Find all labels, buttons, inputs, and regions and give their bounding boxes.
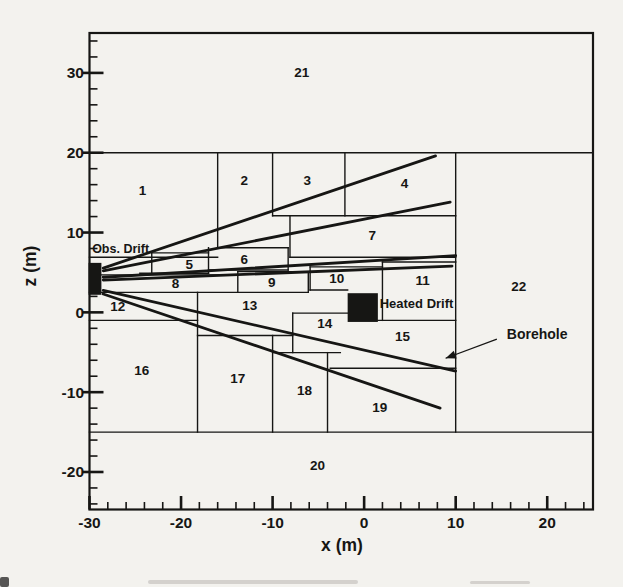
- scan-smudge: [470, 581, 530, 584]
- region-number-label: 19: [372, 400, 387, 415]
- z-tick-label: -10: [62, 384, 84, 401]
- borehole-annotation-label: Borehole: [507, 326, 568, 342]
- region-number-label: 20: [310, 458, 325, 473]
- region-number-label: 10: [329, 271, 344, 286]
- region-number-label: 11: [416, 273, 431, 288]
- scanned-figure-page: -30-20-1001020x (m)3020100-10-20z (m)123…: [0, 0, 623, 587]
- z-tick-label: 30: [67, 64, 84, 81]
- x-tick-label: 0: [360, 514, 369, 531]
- region-number-label: 2: [240, 173, 248, 188]
- region-number-label: 9: [268, 275, 276, 290]
- region-number-label: 21: [294, 65, 310, 80]
- obs-drift-label: Obs. Drift: [92, 242, 150, 256]
- region-number-label: 1: [139, 183, 147, 198]
- borehole-lines-group: [103, 156, 455, 408]
- scan-smudge: [148, 580, 358, 584]
- heated-drift-square: [348, 293, 378, 322]
- region-number-label: 13: [242, 298, 258, 313]
- z-tick-label: -20: [62, 463, 84, 480]
- region-number-label: 17: [230, 371, 245, 386]
- z-tick-label: 0: [75, 304, 84, 321]
- region-number-label: 14: [317, 316, 333, 331]
- heated-drift-label: Heated Drift: [380, 296, 454, 311]
- borehole-line: [103, 294, 440, 408]
- region-number-label: 22: [511, 279, 526, 294]
- region-number-label: 5: [186, 257, 194, 272]
- region-number-label: 3: [304, 173, 312, 188]
- region-number-label: 7: [369, 228, 377, 243]
- z-tick-label: 10: [67, 224, 84, 241]
- obs-drift-square: [89, 263, 102, 295]
- region-number-label: 12: [110, 299, 125, 314]
- x-tick-label: -20: [170, 514, 192, 531]
- region-number-label: 15: [395, 329, 411, 344]
- region-number-label: 18: [297, 383, 313, 398]
- region-number-label: 16: [134, 363, 150, 378]
- z-axis-title: z (m): [20, 246, 40, 287]
- region-number-label: 6: [240, 252, 248, 267]
- region-number-label: 8: [172, 276, 180, 291]
- x-axis-title: x (m): [321, 535, 363, 555]
- borehole-arrowhead: [446, 351, 457, 359]
- x-tick-label: 10: [447, 514, 464, 531]
- region-number-label: 4: [401, 176, 409, 191]
- mesh-cross-section-plot: -30-20-1001020x (m)3020100-10-20z (m)123…: [0, 0, 623, 587]
- x-tick-label: 20: [539, 514, 556, 531]
- borehole-line: [103, 156, 435, 268]
- scan-smudge: [0, 577, 9, 587]
- x-tick-label: -30: [78, 514, 100, 531]
- z-tick-label: 20: [67, 144, 84, 161]
- x-tick-label: -10: [261, 514, 283, 531]
